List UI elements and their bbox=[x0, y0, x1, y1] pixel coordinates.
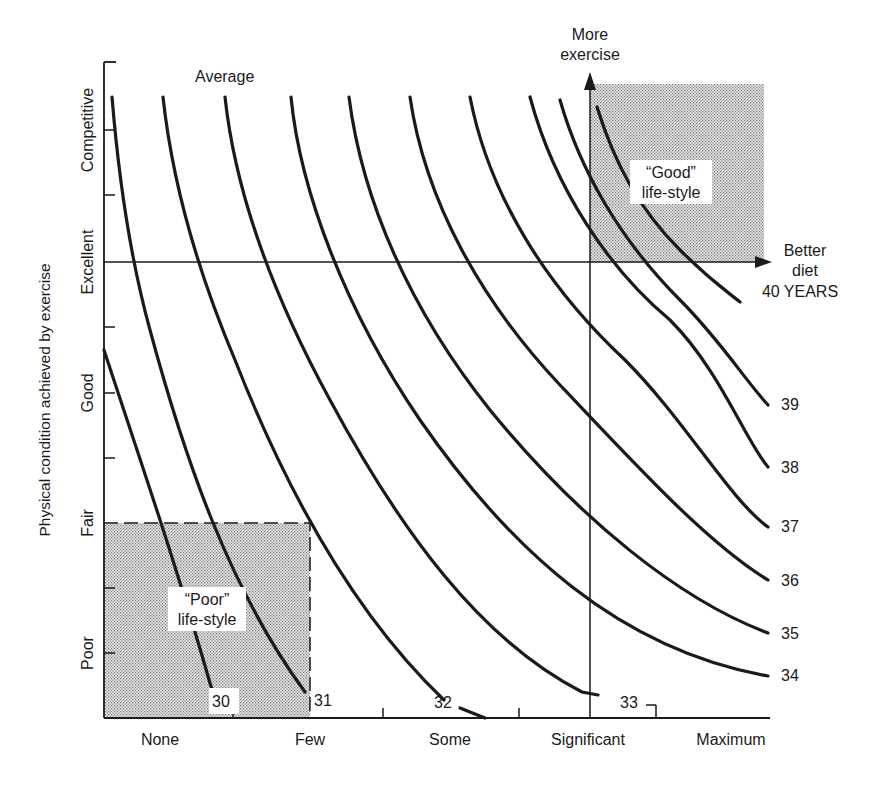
arrow-up-icon bbox=[584, 72, 596, 90]
exercise-label: exercise bbox=[560, 46, 620, 63]
curve-label-37: 37 bbox=[781, 518, 799, 535]
curve-32b bbox=[460, 708, 485, 718]
forty-years-label: 40 YEARS bbox=[762, 283, 838, 300]
curve-label-39: 39 bbox=[781, 396, 799, 413]
poor-lifestyle-label: life-style bbox=[178, 611, 237, 628]
life-expectancy-chart: Average More exercise Better diet 40 YEA… bbox=[0, 0, 880, 785]
x-tick-significant: Significant bbox=[551, 731, 625, 748]
x-tick-maximum: Maximum bbox=[696, 731, 765, 748]
curve-label-30: 30 bbox=[212, 693, 230, 710]
y-tick-fair: Fair bbox=[79, 509, 96, 537]
better-label: Better bbox=[784, 242, 827, 259]
average-label: Average bbox=[195, 68, 254, 85]
good-lifestyle-label: life-style bbox=[642, 184, 701, 201]
y-tick-competitive: Competitive bbox=[79, 88, 96, 173]
curve-label-32: 32 bbox=[434, 694, 452, 711]
x-tick-none: None bbox=[141, 731, 179, 748]
curve-label-34: 34 bbox=[781, 667, 799, 684]
x-tick-few: Few bbox=[295, 731, 326, 748]
curve-label-33: 33 bbox=[620, 694, 638, 711]
poor-label: “Poor” bbox=[185, 591, 229, 608]
curve-label-38: 38 bbox=[781, 459, 799, 476]
diet-label: diet bbox=[792, 262, 818, 279]
y-tick-excellent: Excellent bbox=[79, 229, 96, 294]
curve-label-36: 36 bbox=[781, 572, 799, 589]
y-tick-poor: Poor bbox=[79, 635, 96, 669]
good-label: “Good” bbox=[646, 164, 696, 181]
y-tick-good: Good bbox=[79, 373, 96, 412]
x-tick-some: Some bbox=[429, 731, 471, 748]
curve-label-35: 35 bbox=[781, 625, 799, 642]
y-axis-title: Physical condition achieved by exercise bbox=[36, 263, 53, 536]
more-label: More bbox=[572, 26, 609, 43]
curve-label-31: 31 bbox=[314, 692, 332, 709]
